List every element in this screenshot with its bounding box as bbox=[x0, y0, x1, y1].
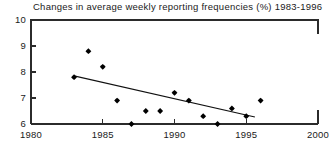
data-point bbox=[229, 106, 235, 112]
y-tick-label-6: 6 bbox=[21, 118, 26, 129]
data-point bbox=[215, 121, 221, 127]
data-point bbox=[129, 121, 135, 127]
x-tick-label-2000: 2000 bbox=[307, 129, 329, 140]
x-axis-ticks bbox=[103, 119, 247, 124]
chart-figure: Changes in average weekly reporting freq… bbox=[0, 0, 331, 149]
data-points-group bbox=[71, 48, 263, 127]
data-point bbox=[114, 98, 120, 104]
trend-line-group bbox=[74, 76, 255, 117]
plot-frame bbox=[31, 20, 318, 124]
data-point bbox=[71, 74, 77, 80]
x-tick-label-1995: 1995 bbox=[235, 129, 257, 140]
trend-line bbox=[74, 76, 255, 117]
data-point bbox=[100, 64, 106, 70]
y-tick-label-10: 10 bbox=[15, 14, 26, 25]
plot-area: 678910 19801985199019952000 bbox=[0, 0, 331, 149]
x-tick-label-1980: 1980 bbox=[20, 129, 42, 140]
y-axis-tick-labels: 678910 bbox=[15, 14, 26, 129]
data-point bbox=[157, 108, 163, 114]
data-point bbox=[172, 90, 178, 96]
x-axis-tick-labels: 19801985199019952000 bbox=[20, 129, 329, 140]
y-tick-label-9: 9 bbox=[21, 40, 26, 51]
x-tick-label-1985: 1985 bbox=[92, 129, 114, 140]
y-axis-ticks bbox=[31, 20, 36, 124]
y-tick-label-7: 7 bbox=[21, 92, 26, 103]
y-tick-label-8: 8 bbox=[21, 66, 26, 77]
data-point bbox=[258, 98, 264, 104]
data-point bbox=[200, 113, 206, 119]
data-point bbox=[143, 108, 149, 114]
data-point bbox=[86, 48, 92, 54]
x-tick-label-1990: 1990 bbox=[164, 129, 186, 140]
